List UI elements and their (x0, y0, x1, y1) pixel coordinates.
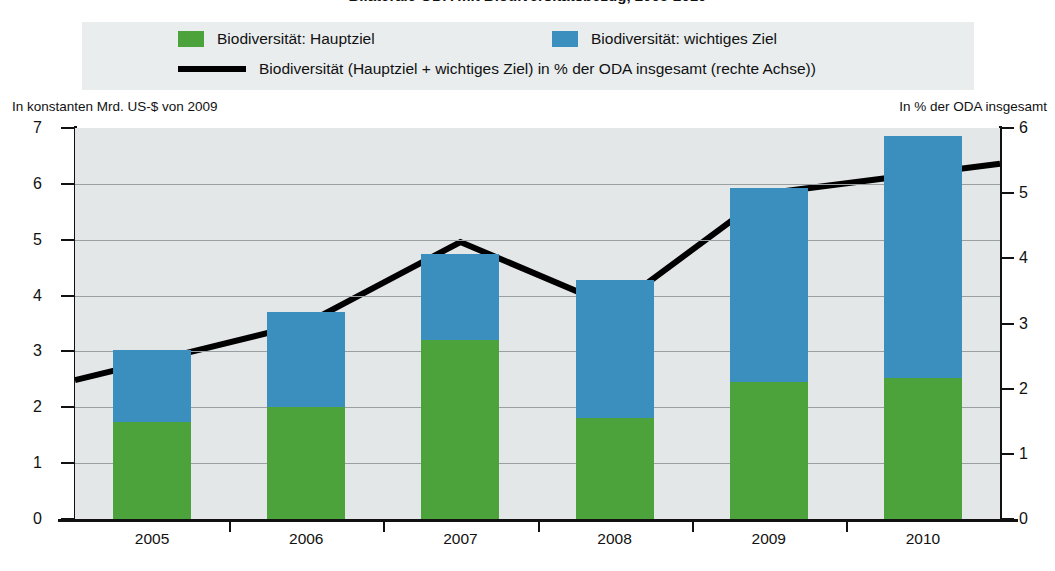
y-axis-tick-right (1000, 257, 1014, 259)
y-axis-label-right: 4 (1019, 249, 1055, 267)
x-axis-label: 2010 (906, 530, 940, 548)
y-axis-tick-left (61, 406, 75, 408)
x-axis-label: 2006 (289, 530, 323, 548)
legend-row-top: Biodiversität: Hauptziel Biodiversität: … (82, 26, 974, 52)
y-axis-tick-left (61, 183, 75, 185)
legend-row-bottom: Biodiversität (Hauptziel + wichtiges Zie… (82, 56, 974, 82)
x-axis-tick (229, 519, 231, 532)
gridline (75, 351, 1000, 352)
bar-hauptziel[interactable] (730, 382, 808, 519)
gridline (75, 184, 1000, 185)
right-axis-caption: In % der ODA insgesamt (899, 99, 1047, 114)
y-axis-tick-right (1000, 518, 1014, 520)
x-axis-tick (692, 519, 694, 532)
legend-item-prozent-linie[interactable]: Biodiversität (Hauptziel + wichtiges Zie… (178, 56, 816, 82)
y-axis-tick-left (61, 127, 75, 129)
legend-label-prozent-linie: Biodiversität (Hauptziel + wichtiges Zie… (259, 60, 816, 78)
y-axis-label-left: 3 (2, 342, 42, 360)
legend-item-wichtiges-ziel[interactable]: Biodiversität: wichtiges Ziel (552, 26, 777, 52)
y-axis-tick-right (1000, 453, 1014, 455)
y-axis-label-right: 5 (1019, 184, 1055, 202)
y-axis-tick-right (1000, 192, 1014, 194)
x-axis-tick (538, 519, 540, 532)
y-axis-tick-right (1000, 323, 1014, 325)
y-axis-label-right: 0 (1019, 510, 1055, 528)
x-axis-label: 2009 (752, 530, 786, 548)
x-axis-label: 2005 (135, 530, 169, 548)
y-axis-label-right: 6 (1019, 119, 1055, 137)
bar-wichtiges-ziel[interactable] (113, 350, 191, 422)
bar-wichtiges-ziel[interactable] (421, 254, 499, 341)
bar-hauptziel[interactable] (884, 378, 962, 519)
x-axis-tick (383, 519, 385, 532)
bar-hauptziel[interactable] (576, 418, 654, 519)
gridline (75, 296, 1000, 297)
bar-hauptziel[interactable] (421, 340, 499, 519)
y-axis-tick-right (1000, 127, 1014, 129)
y-axis-label-left: 5 (2, 231, 42, 249)
bar-hauptziel[interactable] (267, 407, 345, 519)
y-axis-label-left: 2 (2, 398, 42, 416)
y-axis-tick-right (1000, 388, 1014, 390)
y-axis-label-left: 0 (2, 510, 42, 528)
x-axis-tick (846, 519, 848, 532)
green-square-swatch (178, 31, 204, 47)
percent-line-series (75, 128, 1000, 519)
legend-item-hauptziel[interactable]: Biodiversität: Hauptziel (178, 26, 375, 52)
bar-wichtiges-ziel[interactable] (576, 280, 654, 419)
bar-wichtiges-ziel[interactable] (730, 188, 808, 382)
black-line-swatch (178, 66, 246, 72)
bar-wichtiges-ziel[interactable] (884, 136, 962, 378)
y-axis-label-left: 4 (2, 287, 42, 305)
left-axis-caption: In konstanten Mrd. US-$ von 2009 (12, 99, 218, 114)
blue-square-swatch (552, 31, 578, 47)
y-axis-label-right: 2 (1019, 380, 1055, 398)
x-axis-label: 2008 (597, 530, 631, 548)
y-axis-label-left: 1 (2, 454, 42, 472)
bar-hauptziel[interactable] (113, 422, 191, 519)
y-axis-label-left: 7 (2, 119, 42, 137)
bar-wichtiges-ziel[interactable] (267, 312, 345, 407)
y-axis-tick-left (61, 239, 75, 241)
chart-legend: Biodiversität: Hauptziel Biodiversität: … (82, 22, 974, 90)
y-axis-tick-left (61, 518, 75, 520)
gridline (75, 407, 1000, 408)
legend-label-hauptziel: Biodiversität: Hauptziel (217, 30, 375, 48)
gridline (75, 240, 1000, 241)
chart-title: Bilaterale ODA mit Biodiversitätsbezug, … (0, 0, 1055, 7)
gridline (75, 463, 1000, 464)
y-axis-tick-left (61, 462, 75, 464)
legend-label-wichtiges-ziel: Biodiversität: wichtiges Ziel (591, 30, 777, 48)
plot-area (75, 128, 1000, 519)
y-axis-label-right: 3 (1019, 315, 1055, 333)
y-axis-label-right: 1 (1019, 445, 1055, 463)
y-axis-label-left: 6 (2, 175, 42, 193)
y-axis-tick-left (61, 295, 75, 297)
x-axis-label: 2007 (443, 530, 477, 548)
y-axis-tick-left (61, 350, 75, 352)
